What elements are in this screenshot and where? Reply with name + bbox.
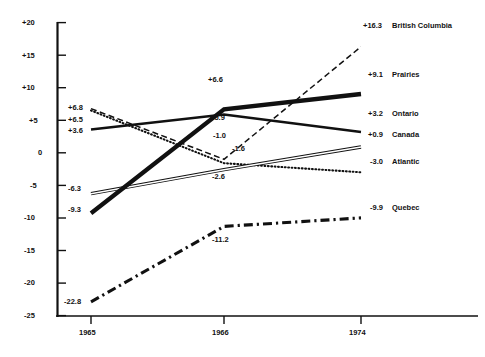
mid-label-canada: -2.6 xyxy=(212,173,225,181)
series-name-canada: Canada xyxy=(392,131,419,139)
series-name-prairies: Prairies xyxy=(392,71,420,79)
series-line-ontario xyxy=(91,114,361,131)
series-line-canada xyxy=(91,147,361,194)
series-line-british-columbia xyxy=(91,47,361,160)
y-tick-label-10: +10 xyxy=(22,84,35,92)
chart-root: +20 +15 +10 +5 0 -5 -10 -15 -20 -25 1965… xyxy=(0,0,485,357)
x-tick-label-1966: 1966 xyxy=(212,329,229,337)
y-tick-label-n15: -15 xyxy=(24,247,35,255)
end-label-canada: +0.9 xyxy=(368,131,383,139)
series-name-british-columbia: British Columbia xyxy=(392,22,452,30)
start-label-quebec: -22.8 xyxy=(64,298,81,306)
mid-label-atlantic: -1.6 xyxy=(232,145,245,153)
y-tick-label-15: +15 xyxy=(22,52,35,60)
start-label-canada: -6.3 xyxy=(68,185,81,193)
series-name-quebec: Quebec xyxy=(392,204,420,212)
mid-label-quebec: -11.2 xyxy=(212,236,229,244)
start-label-prairies: -9.3 xyxy=(68,206,81,214)
x-tick-label-1965: 1965 xyxy=(79,329,96,337)
y-tick-label-n25: -25 xyxy=(24,312,35,320)
y-tick-label-20: +20 xyxy=(22,19,35,27)
y-tick-label-5: +5 xyxy=(29,117,38,125)
start-label-atlantic: +6.5 xyxy=(68,116,83,124)
series-line-quebec xyxy=(91,218,361,302)
series-name-ontario: Ontario xyxy=(392,110,419,118)
mid-label-british-columbia: -1.0 xyxy=(213,132,226,140)
mid-label-ontario: +5.9 xyxy=(210,114,225,122)
series-name-atlantic: Atlantic xyxy=(392,158,420,166)
end-label-atlantic: -3.0 xyxy=(370,158,383,166)
mid-label-prairies: +6.6 xyxy=(208,76,223,84)
y-tick-label-n5: -5 xyxy=(30,182,37,190)
end-label-prairies: +9.1 xyxy=(368,71,383,79)
y-tick-label-n20: -20 xyxy=(24,279,35,287)
x-tick-label-1974: 1974 xyxy=(349,329,366,337)
end-label-british-columbia: +16.3 xyxy=(363,22,382,30)
y-tick-label-n10: -10 xyxy=(24,214,35,222)
series-line-atlantic xyxy=(91,111,361,173)
start-label-british-columbia: +6.8 xyxy=(68,104,83,112)
end-label-ontario: +3.2 xyxy=(368,110,383,118)
x-tick-marks xyxy=(91,316,361,324)
y-tick-label-0: 0 xyxy=(38,149,42,157)
start-label-ontario: +3.6 xyxy=(68,127,83,135)
axis-lines xyxy=(56,22,478,317)
end-label-quebec: -9.9 xyxy=(370,204,383,212)
